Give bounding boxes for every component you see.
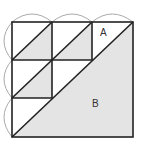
top-arcs [12, 14, 133, 22]
left-arcs [4, 22, 12, 137]
label-b: B [92, 98, 99, 109]
label-a: A [100, 27, 107, 38]
geometry-diagram: A B [0, 0, 141, 149]
